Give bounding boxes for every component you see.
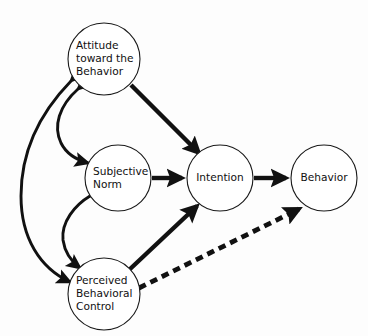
- node-intention[interactable]: Intention: [187, 145, 253, 211]
- subjective-norm-label-line-1: Subjective: [93, 165, 148, 177]
- diagram-canvas: Attitude toward the Behavior Subjective …: [0, 0, 368, 336]
- edge-subjective-norm-perceived-behavioral-control-correlation: [63, 196, 90, 268]
- edge-perceived-behavioral-control-to-behavior: [139, 209, 299, 288]
- subjective-norm-label-line-2: Norm: [93, 178, 122, 190]
- node-behavior[interactable]: Behavior: [291, 145, 357, 211]
- behavior-label: Behavior: [300, 171, 348, 183]
- attitude-label-line-2: toward the: [76, 52, 133, 64]
- tpb-diagram: Attitude toward the Behavior Subjective …: [0, 0, 368, 336]
- perceived-behavioral-control-label-line-1: Perceived: [76, 274, 127, 286]
- node-attitude[interactable]: Attitude toward the Behavior: [68, 23, 140, 95]
- attitude-label-line-3: Behavior: [76, 65, 124, 77]
- perceived-behavioral-control-label-line-3: Control: [76, 300, 114, 312]
- edge-attitude-subjective-norm-correlation: [58, 89, 88, 163]
- attitude-label-line-1: Attitude: [76, 39, 118, 51]
- node-perceived-behavioral-control[interactable]: Perceived Behavioral Control: [68, 258, 140, 330]
- node-subjective-norm[interactable]: Subjective Norm: [85, 145, 151, 211]
- edge-attitude-perceived-behavioral-control-correlation: [21, 81, 71, 282]
- edge-perceived-behavioral-control-to-intention: [129, 206, 197, 270]
- intention-label: Intention: [196, 171, 244, 183]
- edge-attitude-to-intention: [131, 85, 199, 153]
- perceived-behavioral-control-label-line-2: Behavioral: [76, 287, 132, 299]
